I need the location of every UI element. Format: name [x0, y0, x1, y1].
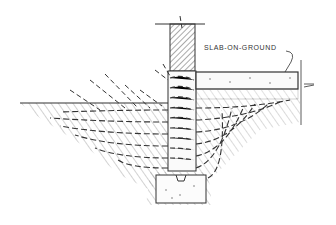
- foundation-wall: [168, 71, 196, 171]
- footing: [146, 172, 212, 205]
- heat-arrows: [70, 16, 182, 110]
- label-leader: [285, 51, 293, 72]
- slab-on-ground-label: SLAB-ON-GROUND: [204, 44, 277, 51]
- wall: [155, 24, 205, 71]
- foundation-diagram: SLAB-ON-GROUND: [0, 0, 336, 225]
